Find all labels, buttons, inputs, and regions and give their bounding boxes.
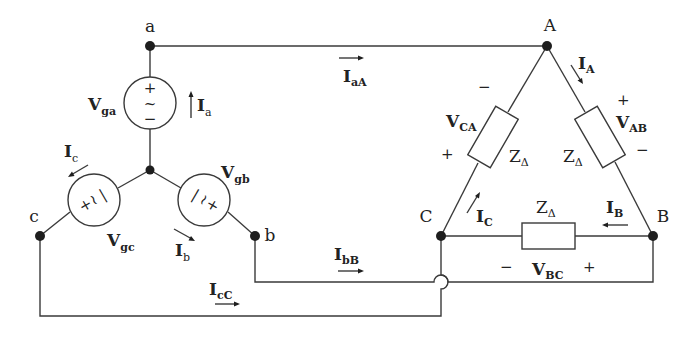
line-cC: [40, 236, 448, 316]
node-B: [648, 231, 658, 241]
svg-text:VBC: VBC: [531, 259, 564, 282]
svg-text:−: −: [144, 110, 157, 128]
current-Ic: Ic: [64, 141, 88, 177]
node-c: [35, 231, 45, 241]
label-Vga: Vga: [87, 94, 116, 118]
circuit-diagram: + ~ − + ~ | | ~ + a c b A C B Vga Vgb Vg: [0, 0, 694, 337]
svg-text:IC: IC: [476, 206, 493, 229]
current-IaA: IaA: [339, 56, 367, 90]
current-IA: IA: [571, 53, 595, 84]
voltage-VAB: + VAB −: [615, 91, 649, 159]
label-Vgb: Vgb: [220, 162, 250, 186]
current-IC: IC: [467, 192, 493, 229]
svg-text:−: −: [478, 78, 491, 96]
svg-text:+: +: [583, 258, 596, 276]
label-Z-BC: ZΔ: [536, 197, 556, 220]
svg-text:IaA: IaA: [343, 66, 367, 89]
voltage-VBC: − VBC +: [500, 258, 596, 282]
current-Ia: Ia: [189, 91, 212, 119]
label-A: A: [543, 15, 557, 35]
svg-text:IcC: IcC: [209, 279, 233, 302]
svg-text:+: +: [617, 91, 630, 109]
node-A: [542, 41, 552, 51]
source-Vgc: + ~ |: [68, 174, 120, 226]
label-b: b: [265, 225, 276, 245]
current-IcC: IcC: [209, 279, 240, 307]
label-B: B: [657, 206, 670, 226]
svg-text:−: −: [500, 258, 513, 276]
svg-text:VCA: VCA: [445, 111, 477, 134]
svg-text:IB: IB: [606, 197, 623, 220]
label-Vgc: Vgc: [106, 230, 135, 254]
svg-text:VAB: VAB: [615, 112, 647, 135]
svg-text:IbB: IbB: [334, 244, 359, 267]
voltage-VCA: − VCA +: [441, 78, 491, 163]
svg-text:Ib: Ib: [175, 240, 190, 264]
label-c: c: [29, 206, 39, 226]
label-C: C: [419, 206, 432, 226]
node-a: [145, 41, 155, 51]
svg-text:−: −: [636, 141, 649, 159]
label-a: a: [145, 16, 155, 36]
impedance-BC: [522, 223, 575, 249]
current-IB: IB: [602, 197, 628, 228]
svg-text:Ic: Ic: [64, 141, 78, 165]
node-neutral: [146, 166, 155, 175]
current-Ib: Ib: [174, 229, 195, 264]
svg-text:IA: IA: [578, 53, 595, 76]
node-C: [436, 231, 446, 241]
node-b: [250, 231, 260, 241]
label-Z-CA: ZΔ: [509, 146, 529, 169]
svg-text:+: +: [441, 145, 454, 163]
label-Z-AB: ZΔ: [563, 146, 583, 169]
source-Vga: + ~ −: [124, 77, 176, 129]
svg-text:Ia: Ia: [197, 95, 212, 119]
current-IbB: IbB: [334, 244, 364, 274]
